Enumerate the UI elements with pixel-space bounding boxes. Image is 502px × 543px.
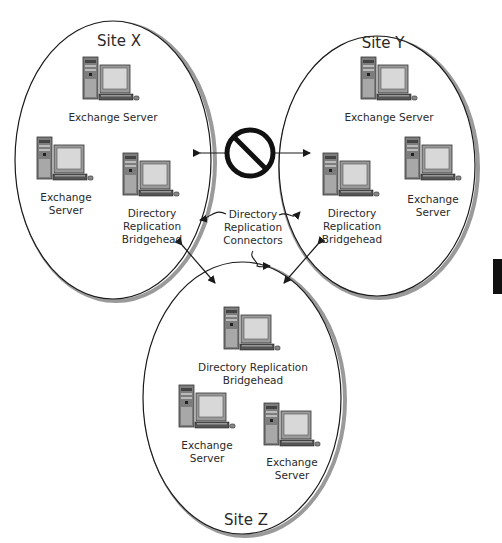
node-label: DirectoryReplicationBridgehead — [322, 207, 382, 246]
node-label: ExchangeServer — [266, 456, 317, 482]
page-edge-tab — [493, 259, 502, 294]
prohibited-icon — [227, 130, 273, 176]
node-label: Directory ReplicationBridgehead — [198, 361, 308, 387]
node-label: ExchangeServer — [407, 193, 458, 219]
site-y-title: Site Y — [362, 34, 405, 52]
site-z-boundary — [143, 262, 341, 534]
site-z-title: Site Z — [224, 511, 268, 529]
node-label: Exchange Server — [344, 111, 433, 124]
node-label: ExchangeServer — [40, 191, 91, 217]
replication-connectors-annotation: DirectoryReplicationConnectors — [223, 208, 283, 247]
node-label: Exchange Server — [68, 111, 157, 124]
node-label: ExchangeServer — [181, 439, 232, 465]
diagram-canvas — [0, 0, 502, 543]
node-label: DirectoryReplicationBridgehead — [122, 207, 182, 246]
site-x-title: Site X — [97, 32, 141, 50]
